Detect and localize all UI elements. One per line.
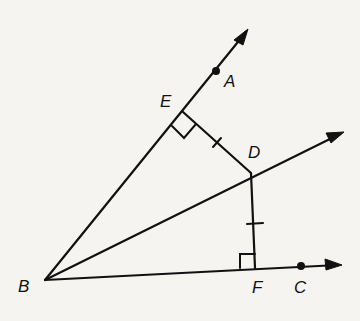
geometry-diagram: A E D B F C: [0, 0, 360, 321]
arrowhead-D-icon: [326, 132, 344, 143]
label-D: D: [248, 143, 260, 162]
arrowhead-C-icon: [325, 259, 342, 270]
label-E: E: [160, 92, 172, 111]
point-A-dot: [212, 67, 220, 75]
ray-BD: [45, 134, 340, 280]
right-angle-mark-F: [240, 254, 255, 268]
point-C-dot: [297, 262, 305, 270]
label-F: F: [252, 278, 264, 297]
label-A: A: [223, 72, 235, 91]
label-C: C: [294, 278, 307, 297]
label-B: B: [18, 277, 29, 296]
right-angle-mark-E: [172, 124, 196, 138]
diagram-svg: A E D B F C: [0, 0, 360, 321]
tick-mark-DF: [247, 223, 263, 224]
